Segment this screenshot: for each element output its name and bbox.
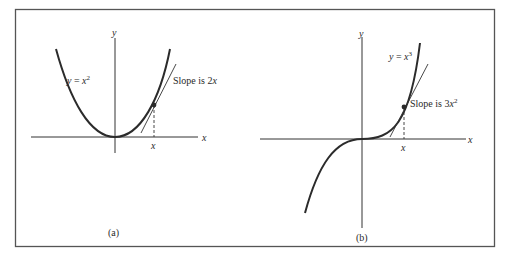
panel-b-tick-label: x bbox=[400, 142, 406, 153]
panel-a-function-label: y = x2 bbox=[66, 74, 91, 86]
panel-a-slope-label: Slope is 2x bbox=[173, 75, 217, 86]
panel-a-x-axis-label: x bbox=[201, 132, 207, 143]
panel-b-function-label: y = x3 bbox=[388, 50, 413, 62]
panel-b-y-axis-label: y bbox=[358, 28, 364, 39]
panel-b-caption: (b) bbox=[356, 232, 368, 244]
figure: y x x y = x2 Slope is 2x (a) y x x y = x… bbox=[0, 0, 508, 258]
panel-a-caption: (a) bbox=[108, 227, 119, 239]
panel-b-slope-label: Slope is 3x2 bbox=[410, 97, 458, 109]
panel-b-x-axis-label: x bbox=[467, 134, 473, 145]
panel-a: y x x y = x2 Slope is 2x (a) bbox=[0, 0, 217, 239]
panel-a-tick-label: x bbox=[150, 140, 156, 151]
panel-a-y-axis-label: y bbox=[111, 27, 117, 38]
panel-b-tangent-point bbox=[402, 105, 407, 110]
panel-a-tangent-line bbox=[141, 64, 176, 133]
figure-frame bbox=[16, 10, 495, 247]
panel-a-tangent-point bbox=[152, 103, 157, 108]
figure-canvas: y x x y = x2 Slope is 2x (a) y x x y = x… bbox=[0, 0, 508, 258]
panel-b: y x x y = x3 Slope is 3x2 (b) bbox=[260, 28, 473, 244]
panel-a-curve bbox=[56, 49, 170, 137]
